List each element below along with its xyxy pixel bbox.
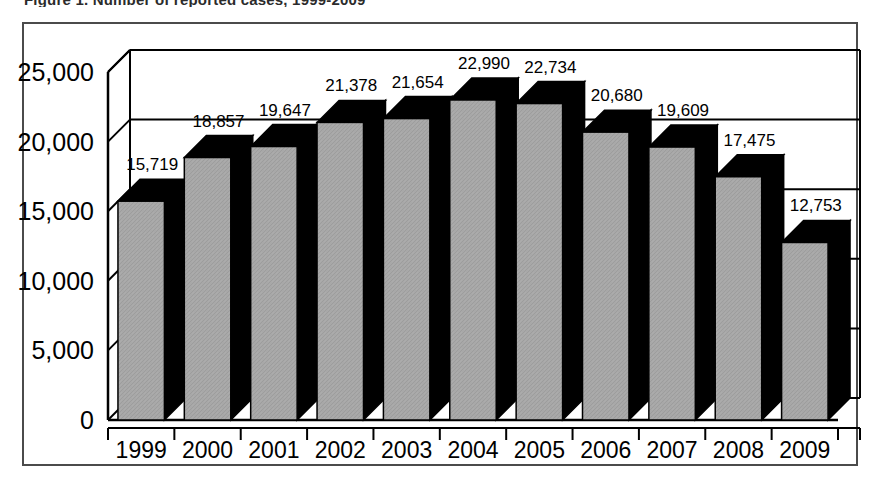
- bar-side-face: [164, 179, 186, 420]
- bar-side-face: [828, 220, 850, 420]
- bar-value-label: 20,680: [591, 86, 643, 105]
- y-axis-tick-label: 5,000: [31, 336, 94, 364]
- y-axis-tick-label: 25,000: [18, 58, 94, 86]
- x-axis-tick-label: 2002: [315, 437, 366, 463]
- y-axis-tick-label: 0: [80, 406, 94, 434]
- grid-depth-connector: [108, 120, 130, 142]
- bar-2008: 17,475: [715, 131, 783, 420]
- bar-side-face: [297, 125, 319, 420]
- bar-side-face: [430, 97, 452, 420]
- bar-side-face: [231, 136, 253, 420]
- bar-front-face: [583, 132, 629, 420]
- bar-2000: 18,857: [184, 112, 252, 420]
- bar-front-face: [516, 104, 562, 420]
- bar-value-label: 19,609: [657, 101, 709, 120]
- bar-front-face: [251, 147, 297, 420]
- bar-2002: 21,378: [317, 76, 385, 420]
- bar-front-face: [450, 100, 496, 420]
- chart-screenshot: Figure 1. Number of reported cases, 1999…: [0, 0, 880, 484]
- bar-1999: 15,719: [118, 155, 186, 420]
- x-axis-tick-label: 2004: [447, 437, 498, 463]
- bar-2004: 22,990: [450, 54, 518, 420]
- y-axis-tick-label: 10,000: [18, 267, 94, 295]
- bar-value-label: 22,734: [524, 58, 576, 77]
- bar-2003: 21,654: [383, 73, 451, 420]
- bar-2009: 12,753: [782, 196, 850, 420]
- bar-front-face: [715, 177, 761, 420]
- x-axis-tick-label: 2003: [381, 437, 432, 463]
- bar-front-face: [383, 119, 429, 420]
- bar-2001: 19,647: [251, 101, 319, 420]
- bar-value-label: 21,378: [325, 76, 377, 95]
- bar-value-label: 22,990: [458, 54, 510, 73]
- bar-side-face: [762, 155, 784, 420]
- x-axis-tick-label: 1999: [116, 437, 167, 463]
- x-axis-tick-label: 2007: [647, 437, 698, 463]
- bar-front-face: [184, 158, 230, 420]
- x-axis-tick-label: 2005: [514, 437, 565, 463]
- bar-value-label: 15,719: [126, 155, 178, 174]
- x-axis-tick-label: 2009: [779, 437, 830, 463]
- bar-front-face: [317, 122, 363, 420]
- bar-side-face: [695, 125, 717, 420]
- x-axis-tick-label: 2008: [713, 437, 764, 463]
- bar-value-label: 12,753: [790, 196, 842, 215]
- x-axis-tick-label: 2000: [182, 437, 233, 463]
- bar-2007: 19,609: [649, 101, 717, 420]
- bar-front-face: [118, 201, 164, 420]
- bar-value-label: 19,647: [259, 101, 311, 120]
- bar-side-face: [629, 110, 651, 420]
- bar-value-label: 17,475: [723, 131, 775, 150]
- bar-2005: 22,734: [516, 58, 584, 420]
- y-axis-tick-label: 20,000: [18, 128, 94, 156]
- bar-front-face: [782, 242, 828, 420]
- bar-front-face: [649, 147, 695, 420]
- bar-value-label: 21,654: [392, 73, 444, 92]
- x-axis-tick-label: 2006: [580, 437, 631, 463]
- top-depth-connector: [108, 50, 130, 72]
- bar-chart: 05,00010,00015,00020,00025,00015,7191999…: [0, 0, 880, 484]
- bar-side-face: [496, 78, 518, 420]
- bar-value-label: 18,857: [193, 112, 245, 131]
- x-axis-tick-label: 2001: [248, 437, 299, 463]
- bar-2006: 20,680: [583, 86, 651, 420]
- bar-side-face: [364, 100, 386, 420]
- y-axis-tick-label: 15,000: [18, 197, 94, 225]
